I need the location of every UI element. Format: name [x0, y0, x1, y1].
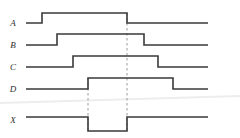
signal-label-x: X — [9, 115, 16, 125]
signal-label-d: D — [9, 84, 17, 94]
waveform-b — [26, 34, 208, 45]
waveform-x — [26, 117, 208, 131]
scan-streak-artifact — [0, 96, 240, 103]
waveform-c — [26, 56, 208, 67]
waveform-a — [26, 13, 208, 23]
signal-label-b: B — [10, 40, 16, 50]
timing-diagram: A B C D X — [0, 0, 240, 138]
signal-label-a: A — [9, 18, 16, 28]
signal-label-c: C — [10, 62, 17, 72]
waveform-d — [26, 78, 208, 89]
timing-diagram-canvas: A B C D X — [0, 0, 240, 138]
